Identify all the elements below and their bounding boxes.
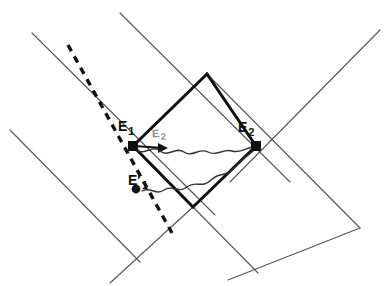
diagram-canvas [0,0,391,286]
lightcone-e1-up-right-line [133,74,207,146]
label-e2-faint-base: E [152,127,160,139]
grid-line-ne-2 [110,207,193,283]
spacetime-diagram-figure: E1 E2 E′1 E2 [0,0,391,286]
grid-line-ne-4 [228,228,360,280]
wavy-signal-lower [142,148,256,192]
thick-lightcone-lines [133,74,256,207]
label-e1-sub: 1 [128,125,134,137]
grid-line-nw-2 [10,130,140,262]
label-e2: E2 [238,119,253,135]
label-e2-faint: E2 [151,124,164,141]
event-marker-e2 [251,141,261,151]
label-e1-prime-sub: 1 [142,179,148,191]
label-e2-base: E [238,119,247,135]
label-e1-prime-mark: ′ [137,172,140,188]
label-e1: E1 [118,118,133,134]
short-arrow-head [158,143,168,153]
grid-line-nw-4 [193,207,258,273]
lightcone-e2-down-left-line [193,146,256,207]
label-e1-prime-base: E [128,172,137,188]
label-e2-sub: 2 [248,126,254,138]
label-e1-prime: E′1 [128,172,147,188]
event-marker-e1 [128,141,138,151]
thin-grid-lines [10,13,380,283]
grid-line-ne-3 [230,30,380,182]
label-e1-base: E [118,118,127,134]
